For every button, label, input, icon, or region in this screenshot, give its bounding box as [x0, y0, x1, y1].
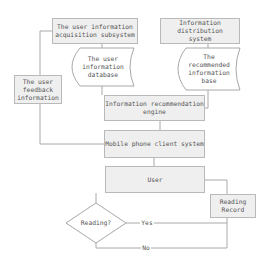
flowchart: The user information acquisition subsyst… — [0, 0, 273, 266]
user-feedback-box: The user feedback information — [14, 75, 62, 104]
user-box: User — [105, 166, 205, 193]
yes-edge-label: Yes — [140, 219, 154, 227]
acquisition-subsystem-box: The user information acquisition subsyst… — [52, 18, 138, 44]
recommendation-engine-box: Information recommendation engine — [104, 95, 205, 121]
mobile-client-box: Mobile phone client system — [104, 130, 205, 158]
no-edge-label: No — [141, 244, 151, 252]
recommended-info-base: The recommended information base — [180, 50, 238, 88]
reading-record-box: Reading Record — [210, 194, 256, 218]
user-info-database: The user information database — [74, 50, 132, 84]
decision-label: Reading? — [72, 219, 120, 227]
distribution-system-box: Information distribution system — [160, 18, 240, 44]
